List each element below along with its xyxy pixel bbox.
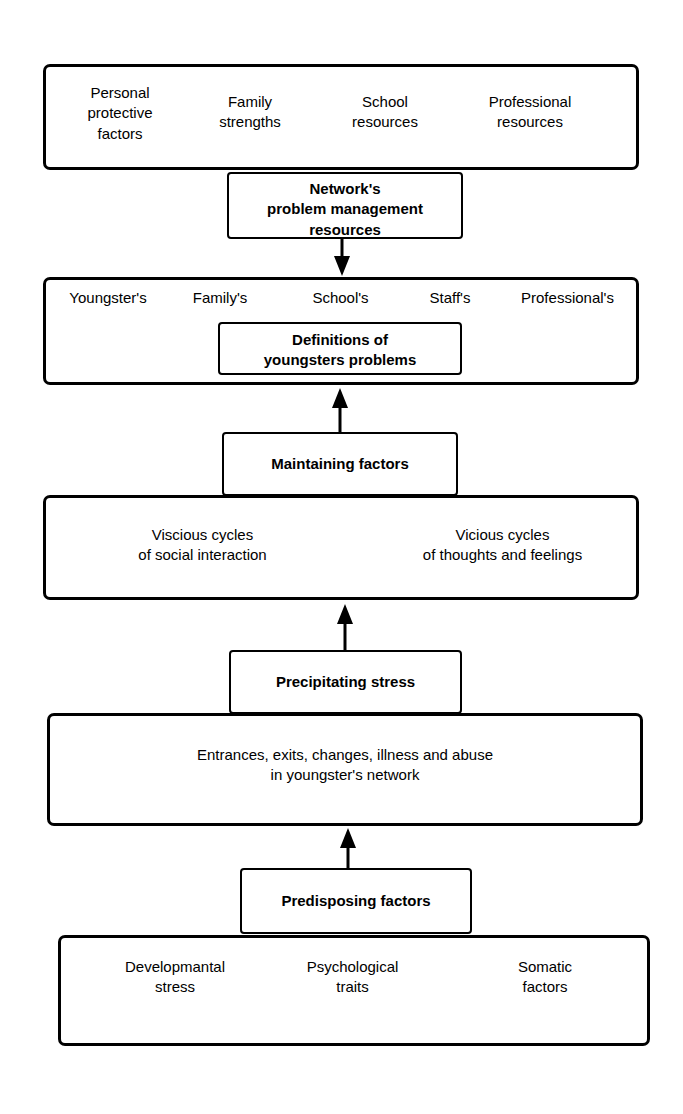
- entrances-item-text: Entrances, exits, changes, illness and a…: [100, 745, 590, 786]
- cycles-item-social: Viscious cycles of social interaction: [105, 525, 300, 566]
- definitions-item-family: Family's: [175, 288, 265, 308]
- predisposing-item-psychological: Psychological traits: [265, 957, 440, 998]
- protective-item-school: School resources: [325, 92, 445, 133]
- definitions-item-school: School's: [293, 288, 388, 308]
- predisposing-item-somatic: Somatic factors: [465, 957, 625, 998]
- arrow-network-to-definitions: [334, 238, 350, 278]
- precipitating-stress-label: Precipitating stress: [229, 672, 462, 692]
- arrow-precipitating-to-cycles: [337, 604, 353, 652]
- predisposing-factors-label: Predisposing factors: [240, 891, 472, 911]
- maintaining-factors-label: Maintaining factors: [222, 454, 458, 474]
- predisposing-item-developmental: Developmantal stress: [80, 957, 270, 998]
- protective-item-professional: Professional resources: [455, 92, 605, 133]
- cycles-item-thoughts: Vicious cycles of thoughts and feelings: [390, 525, 615, 566]
- definitions-item-staff: Staff's: [410, 288, 490, 308]
- protective-item-personal: Personal protective factors: [55, 83, 185, 144]
- definitions-item-youngster: Youngster's: [53, 288, 163, 308]
- protective-item-family: Family strengths: [190, 92, 310, 133]
- arrow-maintaining-to-definitions: [332, 388, 348, 433]
- network-resources-label: Network's problem management resources: [227, 179, 463, 240]
- definitions-inner-label: Definitions of youngsters problems: [218, 330, 462, 371]
- formulation-diagram: Personal protective factors Family stren…: [0, 0, 683, 1114]
- definitions-item-professional: Professional's: [505, 288, 630, 308]
